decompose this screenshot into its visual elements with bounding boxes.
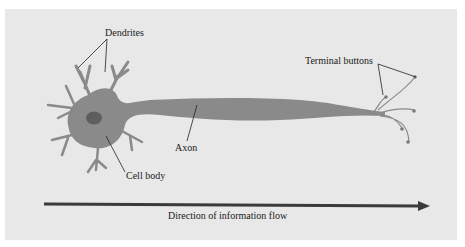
terminal-button <box>406 140 410 144</box>
terminal-button <box>412 109 416 113</box>
label-dendrites: Dendrites <box>105 28 144 38</box>
dendrite <box>88 148 106 172</box>
label-terminal-buttons: Terminal buttons <box>305 56 373 66</box>
label-flow: Direction of information flow <box>168 211 287 221</box>
terminal-button <box>384 95 388 99</box>
dendrite <box>48 86 74 118</box>
axon-terminal <box>372 77 415 142</box>
terminal-button <box>400 127 404 131</box>
neuron <box>48 62 417 172</box>
label-cell-body: Cell body <box>126 171 165 181</box>
dendrite <box>76 66 90 96</box>
nucleus <box>86 112 102 125</box>
cell-body-shape <box>68 88 385 148</box>
dendrite <box>110 62 128 92</box>
dendrite <box>120 130 142 150</box>
label-axon: Axon <box>175 143 197 153</box>
dendrite <box>52 135 72 155</box>
